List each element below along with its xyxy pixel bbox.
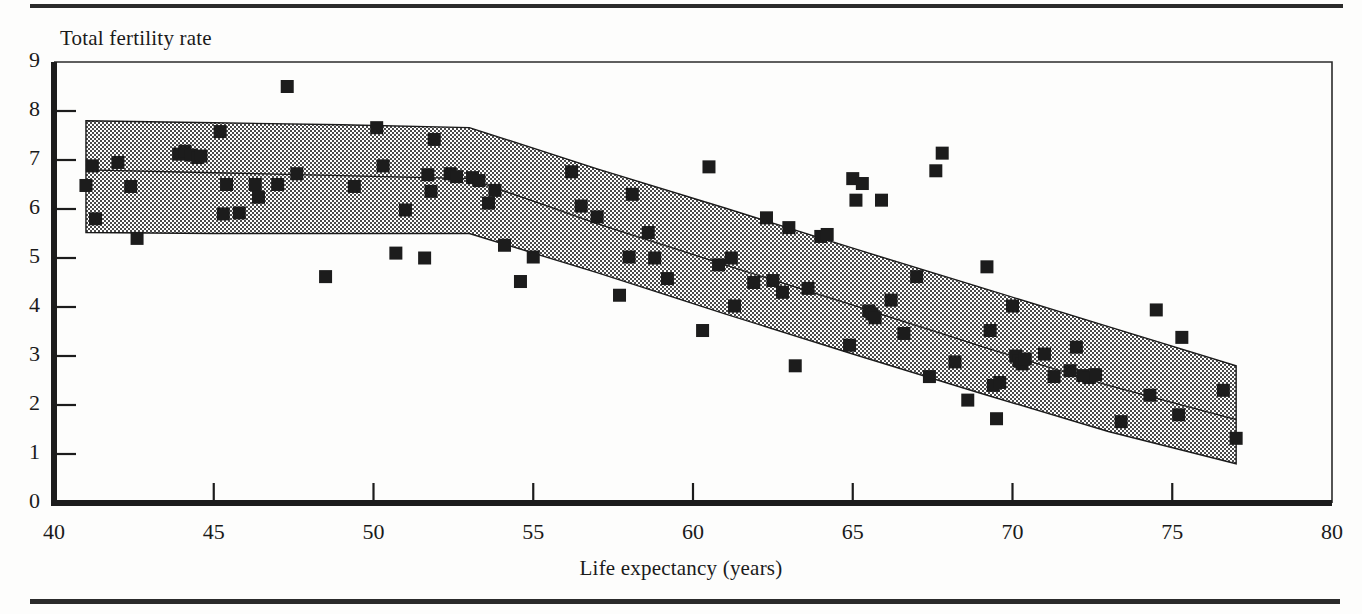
x-tick-label: 75 [1142,519,1202,545]
data-point [728,300,741,313]
data-point [613,289,626,302]
data-point [885,294,898,307]
data-point [1172,408,1185,421]
data-point [821,228,834,241]
data-point [696,324,709,337]
data-point [377,159,390,172]
data-point [86,159,99,172]
data-point [194,150,207,163]
data-point [990,412,1003,425]
data-point [1175,331,1188,344]
data-point [428,133,441,146]
y-tick-label: 3 [6,341,40,367]
data-point [399,203,412,216]
data-point [1064,364,1077,377]
data-point [948,355,961,368]
data-point [217,207,230,220]
data-point [565,165,578,178]
data-point [843,339,856,352]
data-point [802,282,815,295]
data-point [249,178,262,191]
data-point [897,327,910,340]
y-tick-label: 5 [6,243,40,269]
x-axis-title: Life expectancy (years) [0,556,1362,581]
data-point [290,167,303,180]
data-point [993,376,1006,389]
data-point [1115,415,1128,428]
x-tick-label: 65 [823,519,883,545]
data-point [923,370,936,383]
data-point [623,251,636,264]
data-point [760,211,773,224]
data-point [1019,352,1032,365]
data-point [421,168,434,181]
data-point [271,178,284,191]
data-point [425,185,438,198]
data-point [725,252,738,265]
data-point [766,274,779,287]
data-point [124,180,137,193]
x-tick-label: 60 [663,519,723,545]
data-point [910,270,923,283]
data-point [591,210,604,223]
data-point [79,179,92,192]
data-point [875,194,888,207]
data-point [527,251,540,264]
data-point [498,239,511,252]
data-point [648,252,661,265]
data-point [220,178,233,191]
data-point [131,232,144,245]
data-point [961,394,974,407]
data-point [514,275,527,288]
y-tick-label: 9 [6,47,40,73]
data-point [712,258,725,271]
data-point [849,194,862,207]
data-point [856,177,869,190]
data-point [252,191,265,204]
data-point [702,160,715,173]
data-point [418,252,431,265]
data-point [89,212,102,225]
data-point [1089,368,1102,381]
data-point [869,311,882,324]
x-tick-label: 70 [983,519,1043,545]
y-tick-label: 8 [6,96,40,122]
data-point [936,147,949,160]
data-point [789,359,802,372]
x-tick-label: 80 [1302,519,1362,545]
y-tick-label: 0 [6,488,40,514]
data-point [642,226,655,239]
y-tick-label: 1 [6,439,40,465]
data-point [472,174,485,187]
data-point [575,200,588,213]
data-point [984,324,997,337]
data-point [1048,370,1061,383]
data-point [281,80,294,93]
fertility-life-expectancy-scatter-chart: Total fertility rate Life expectancy (ye… [0,0,1362,614]
y-tick-label: 4 [6,292,40,318]
data-point [488,184,501,197]
x-tick-label: 40 [24,519,84,545]
data-point [319,270,332,283]
data-point [1143,389,1156,402]
data-point [1217,384,1230,397]
y-tick-label: 7 [6,145,40,171]
data-point [348,180,361,193]
data-point [389,247,402,260]
data-point [370,121,383,134]
data-point [1150,303,1163,316]
data-point [1038,348,1051,361]
data-point [776,286,789,299]
data-point [1006,300,1019,313]
y-axis-title: Total fertility rate [60,26,212,51]
confidence-band [86,121,1236,464]
data-point [929,164,942,177]
data-point [450,170,463,183]
data-point [661,272,674,285]
data-point [214,125,227,138]
x-tick-label: 55 [503,519,563,545]
data-point [1070,341,1083,354]
y-tick-label: 6 [6,194,40,220]
x-tick-label: 50 [344,519,404,545]
data-point [782,221,795,234]
